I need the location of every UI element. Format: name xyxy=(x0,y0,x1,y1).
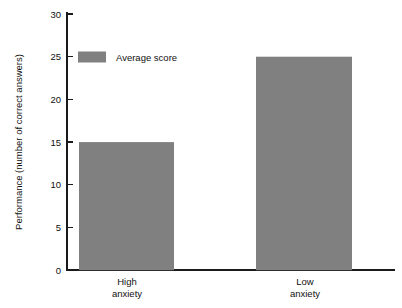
bar-chart: 30 25 20 15 10 5 0 Performance (number o… xyxy=(0,0,402,308)
y-tick-label-10: 10 xyxy=(50,179,61,190)
y-tick-label-0: 0 xyxy=(56,265,61,276)
y-tick-label-30: 30 xyxy=(50,9,61,20)
y-axis-tick-labels: 30 25 20 15 10 5 0 xyxy=(50,9,61,276)
x-label-low-anxiety-line1: Low xyxy=(296,276,314,287)
y-axis-title: Performance (number of correct answers) xyxy=(13,54,24,230)
chart-canvas: 30 25 20 15 10 5 0 Performance (number o… xyxy=(0,0,402,308)
y-tick-label-25: 25 xyxy=(50,51,61,62)
y-tick-label-20: 20 xyxy=(50,94,61,105)
bar-low-anxiety xyxy=(256,57,352,271)
x-label-high-anxiety-line1: High xyxy=(117,276,137,287)
y-tick-label-15: 15 xyxy=(50,137,61,148)
y-axis-ticks xyxy=(67,14,73,270)
bar-high-anxiety xyxy=(79,142,174,270)
y-tick-label-5: 5 xyxy=(56,222,61,233)
x-label-high-anxiety-line2: anxiety xyxy=(112,288,142,299)
legend-label-average-score: Average score xyxy=(116,52,177,63)
legend-swatch-average-score xyxy=(78,52,106,63)
legend: Average score xyxy=(78,52,177,63)
x-label-low-anxiety-line2: anxiety xyxy=(290,288,320,299)
x-axis-category-labels: High anxiety Low anxiety xyxy=(112,276,320,299)
